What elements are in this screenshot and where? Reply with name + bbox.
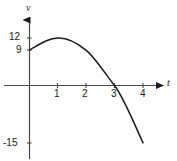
y-axis-label: v: [26, 3, 30, 13]
x-axis-label: t: [167, 78, 170, 88]
x-tick-label-2: 2: [82, 89, 88, 99]
y-tick-label-9: 9: [16, 45, 22, 55]
velocity-time-graph: 12 9 -15 1 2 3 4 v t: [0, 0, 177, 161]
plot-canvas: [0, 0, 177, 161]
y-tick-label-minus-15: -15: [3, 138, 17, 148]
y-tick-label-12: 12: [9, 32, 20, 42]
x-tick-label-4: 4: [140, 89, 146, 99]
x-tick-label-3: 3: [111, 89, 117, 99]
x-tick-label-1: 1: [54, 89, 60, 99]
